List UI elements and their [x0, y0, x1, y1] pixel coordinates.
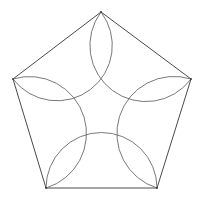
side-arc-4 — [13, 77, 86, 188]
pentagon-outline — [13, 12, 191, 188]
vertex-top — [100, 11, 102, 13]
inward-semicircle-arcs — [13, 12, 191, 188]
vertex-bottom-right — [156, 187, 158, 189]
vertex-bottom-left — [45, 187, 47, 189]
pentagon-diagram — [0, 0, 204, 199]
pentagon-figure — [0, 0, 204, 199]
vertex-left — [12, 78, 14, 80]
vertex-right — [190, 78, 192, 80]
side-arc-1 — [90, 12, 191, 102]
side-arc-2 — [117, 76, 191, 188]
